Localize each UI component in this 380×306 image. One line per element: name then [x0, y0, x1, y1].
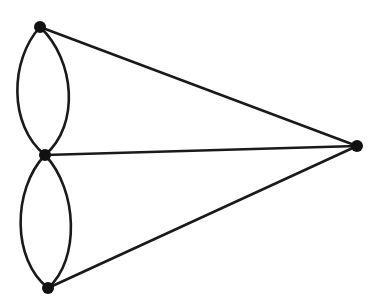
edges	[17, 27, 357, 288]
edge-top-middle-right	[40, 27, 69, 155]
vertex-top	[34, 21, 46, 33]
edge-middle-bottom-left	[21, 155, 48, 288]
vertex-bottom	[42, 282, 54, 294]
edge-middle-right	[45, 146, 357, 155]
edge-top-middle-left	[17, 27, 45, 155]
graph-diagram	[0, 0, 380, 306]
vertices	[34, 21, 363, 294]
edge-bottom-right	[48, 146, 357, 288]
edge-middle-bottom-right	[45, 155, 71, 288]
vertex-right	[351, 140, 363, 152]
edge-top-right	[40, 27, 357, 146]
vertex-middle	[39, 149, 51, 161]
